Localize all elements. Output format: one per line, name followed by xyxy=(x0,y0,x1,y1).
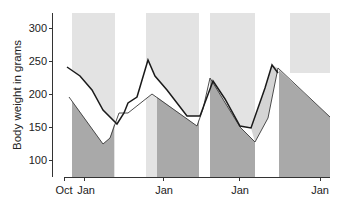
y-tick-150: 150 xyxy=(29,121,47,133)
body-weight-chart: 300 250 200 150 100 Body weight in grams… xyxy=(0,0,341,207)
y-tick-250: 250 xyxy=(29,55,47,67)
x-axis: Oct Jan Jan Jan Jan xyxy=(55,177,330,196)
y-tick-200: 200 xyxy=(29,88,47,100)
y-axis: 300 250 200 150 100 Body weight in grams xyxy=(11,13,53,177)
light-band-4 xyxy=(290,13,330,73)
x-tick-oct: Oct xyxy=(55,184,72,196)
x-tick-jan-4: Jan xyxy=(311,184,329,196)
x-tick-jan-2: Jan xyxy=(155,184,173,196)
x-tick-jan-3: Jan xyxy=(231,184,249,196)
y-axis-title: Body weight in grams xyxy=(11,40,23,150)
y-tick-100: 100 xyxy=(29,154,47,166)
x-tick-jan-1: Jan xyxy=(77,184,95,196)
y-tick-300: 300 xyxy=(29,22,47,34)
